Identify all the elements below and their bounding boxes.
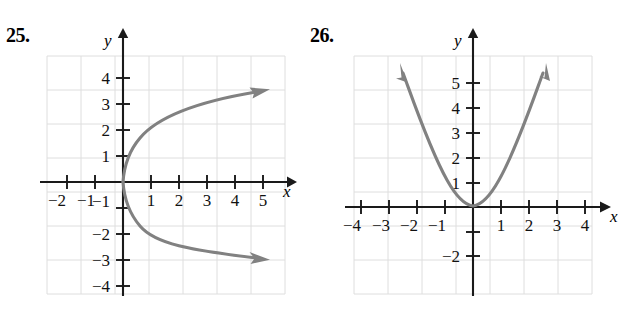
y-tick-label-25-7: −4: [92, 277, 111, 296]
y-tick-label-26-0: 5: [452, 74, 461, 93]
y-tick-label-25-0: 4: [102, 69, 111, 88]
curve-25-upper: [123, 92, 256, 182]
figure-page: 25.: [0, 0, 624, 311]
y-tick-label-26-5: −2: [442, 247, 460, 266]
y-axis-label-26: y: [452, 31, 462, 50]
y-tick-label-25-3: 1: [102, 147, 111, 166]
x-tick-label-26-4: 1: [497, 216, 506, 235]
x-tick-label-25-5: 4: [231, 191, 240, 210]
x-tick-label-25-0: −2: [48, 191, 66, 210]
problem-25-figure: 25.: [0, 0, 312, 311]
x-tick-label-26-7: 4: [581, 216, 590, 235]
x-tick-label-26-5: 2: [525, 216, 534, 235]
x-tick-label-25-6: 5: [259, 191, 268, 210]
y-tick-label-25-1: 3: [102, 95, 111, 114]
graph-25-canvas: y x −2 −1 1 2 3 4 5 4 3 2 1 −1 −2 −3 −4: [0, 0, 312, 311]
x-tick-label-26-3: −1: [428, 216, 446, 235]
x-tick-label-26-6: 3: [553, 216, 562, 235]
x-tick-label-25-2: 1: [147, 191, 156, 210]
arrowhead-26-left: [396, 63, 408, 83]
problem-26-figure: 26.: [312, 0, 624, 311]
x-axis-label-26: x: [609, 207, 618, 226]
x-tick-label-25-4: 3: [203, 191, 212, 210]
x-tick-label-26-2: −2: [400, 216, 418, 235]
x-tick-label-26-1: −3: [372, 216, 390, 235]
y-tick-label-25-2: 2: [102, 121, 111, 140]
y-tick-label-26-3: 2: [452, 149, 461, 168]
x-tick-label-25-3: 2: [175, 191, 184, 210]
y-tick-label-26-2: 3: [452, 124, 461, 143]
y-axis-label-25: y: [102, 31, 112, 50]
x-tick-label-26-0: −4: [343, 216, 362, 235]
y-tick-label-25-4: −1: [92, 192, 110, 211]
y-tick-label-25-5: −2: [92, 225, 110, 244]
graph-26-canvas: y x −4 −3 −2 −1 1 2 3 4 5 4 3 2 1 −2: [312, 0, 624, 311]
y-tick-label-25-6: −3: [92, 251, 110, 270]
y-tick-label-26-1: 4: [452, 99, 461, 118]
x-axis-label-25: x: [282, 182, 291, 201]
x-axis-25: [40, 177, 297, 188]
